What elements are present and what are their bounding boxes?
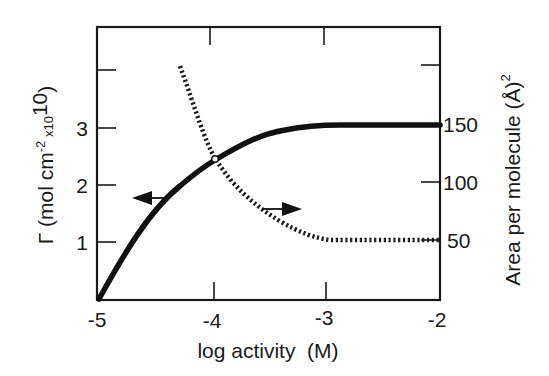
surface-excess-curve [99,125,440,299]
y-left-tick-label: 3 [76,117,88,140]
x-tick-label: -4 [203,309,222,332]
y-right-tick-label: 100 [443,171,478,194]
plot-frame [97,27,440,300]
x-tick-label: -2 [428,308,447,331]
x-ticks-top [210,27,324,45]
intersection-marker [212,156,218,162]
y-right-tick-label: 50 [447,229,470,252]
y-left-tick-labels: 1 2 3 [76,117,88,254]
x-tick-label: -5 [88,308,107,331]
right-axis-arrow-icon [262,202,302,216]
chart: -5 -4 -3 -2 1 2 3 50 100 150 log activit… [0,0,549,376]
y-right-tick-label: 150 [443,113,478,136]
y-right-axis-title: Area per molecule (Å)2 [498,74,524,285]
x-tick-label: -3 [315,306,334,329]
y-left-tick-label: 2 [76,174,88,197]
x-tick-labels: -5 -4 -3 -2 [88,306,447,332]
x-axis-title: log activity (M) [197,339,338,362]
y-left-ticks [97,70,116,242]
x-ticks-bottom [214,282,326,300]
y-right-tick-labels: 50 100 150 [443,113,478,252]
y-left-tick-label: 1 [76,231,88,254]
y-left-axis-title: Γ (mol cm-2 x1010) [28,86,57,245]
y-right-ticks [421,65,440,240]
area-per-molecule-curve [180,66,440,240]
